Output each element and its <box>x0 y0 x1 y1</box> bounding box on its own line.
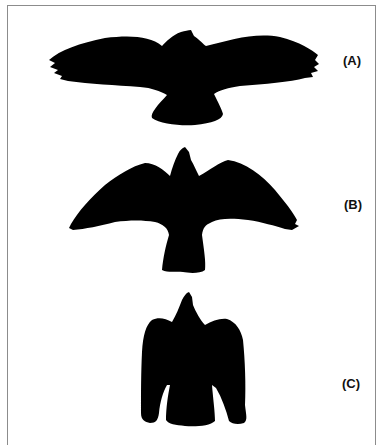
bird-silhouette-c <box>141 292 246 426</box>
bird-silhouette-a <box>49 30 319 125</box>
panel-label-a: (A) <box>343 53 361 68</box>
panel-label-c: (C) <box>342 376 360 391</box>
bird-silhouette-b <box>69 147 299 273</box>
panel-label-b: (B) <box>344 197 362 212</box>
